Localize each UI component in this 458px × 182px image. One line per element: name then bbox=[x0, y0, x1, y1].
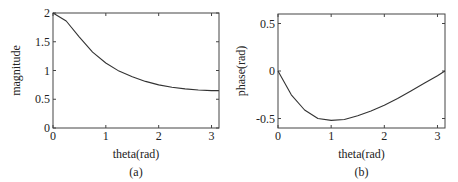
y-tick-label: 1.5 bbox=[35, 35, 50, 49]
y-tick-label: 0 bbox=[44, 121, 50, 135]
y-tick-label: -0.5 bbox=[256, 112, 275, 126]
data-line bbox=[278, 71, 445, 120]
x-tick-label: 3 bbox=[209, 129, 215, 143]
figure-caption: (a) bbox=[129, 165, 142, 179]
data-line bbox=[53, 13, 219, 91]
x-tick-label: 0 bbox=[50, 129, 56, 143]
x-axis-label: theta(rad) bbox=[338, 147, 385, 161]
x-tick-label: 1 bbox=[103, 129, 109, 143]
x-axis-label: theta(rad) bbox=[113, 147, 160, 161]
plot-frame bbox=[278, 14, 445, 128]
x-tick-label: 3 bbox=[434, 129, 440, 143]
x-tick-label: 0 bbox=[275, 129, 281, 143]
y-axis-label: magnitude bbox=[9, 45, 23, 96]
y-tick-label: 2 bbox=[44, 6, 50, 20]
y-tick-label: 0.5 bbox=[260, 17, 275, 31]
plot-a: 012300.511.52theta(rad)(a)magnitude bbox=[9, 6, 219, 179]
y-axis-label: phase(rad) bbox=[234, 46, 248, 97]
x-tick-label: 2 bbox=[156, 129, 162, 143]
x-tick-label: 2 bbox=[381, 129, 387, 143]
x-tick-label: 1 bbox=[328, 129, 334, 143]
y-tick-label: 1 bbox=[44, 64, 50, 78]
y-tick-label: 0.5 bbox=[35, 92, 50, 106]
plot-b: 0123-0.500.5theta(rad)(b)phase(rad) bbox=[234, 14, 445, 179]
figure: 012300.511.52theta(rad)(a)magnitude0123-… bbox=[0, 0, 458, 182]
y-tick-label: 0 bbox=[269, 64, 275, 78]
figure-caption: (b) bbox=[355, 165, 369, 179]
plot-frame bbox=[53, 13, 219, 128]
